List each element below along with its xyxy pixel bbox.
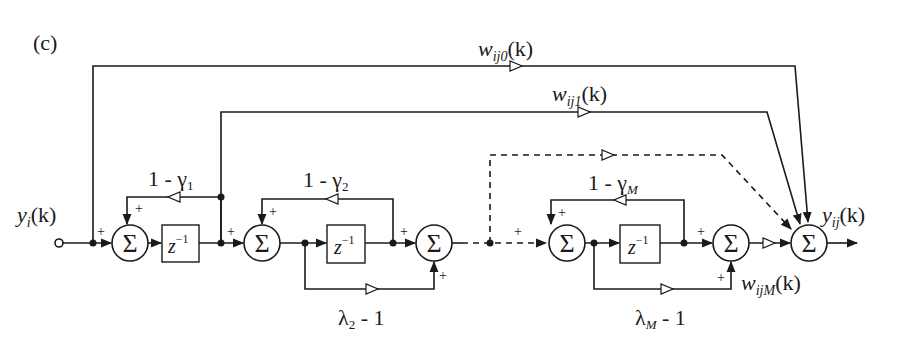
plus-sign: + [227,224,235,239]
weight-line-0 [93,61,808,243]
continuation-dashed [452,240,546,247]
feedback-gain-2: 1 - γ2 [303,167,349,194]
sigma-icon: Σ [801,229,816,258]
plus-sign: + [400,224,408,239]
panel-label: (c) [33,30,57,55]
gain-triangle-icon [326,194,338,204]
weight-label-M: wijM(k) [741,270,801,298]
gain-triangle-icon [661,284,673,294]
sigma-icon: Σ [122,229,137,258]
sigma-icon: Σ [426,229,441,258]
output-label: yij(k) [820,202,865,230]
gain-triangle-icon [168,192,180,202]
plus-sign: + [97,224,105,239]
input-label: yi(k) [15,202,56,230]
feedforward-gain-M: λM - 1 [635,305,686,332]
stage-1: + Σ z−1 + 1 - γ1 [63,166,243,262]
sigma-icon: Σ [254,229,269,258]
stage-2: + Σ z−1 + 1 - γ2 + Σ + λ2 - 1 [227,167,452,332]
plus-sign: + [697,224,705,239]
feedforward-gain-2: λ2 - 1 [338,305,385,332]
input-terminal-icon [55,239,63,247]
stage-M: + Σ z−1 + 1 - γM + Σ + λM - 1 wijM(k) [514,170,801,332]
plus-sign: + [269,204,277,219]
plus-sign: + [439,268,447,283]
weight-label-1: wij1(k) [552,81,607,109]
feedback-gain-M: 1 - γM [588,170,639,197]
gain-triangle-icon [614,195,626,205]
lattice-filter-diagram: (c) wij0(k) wij1(k) yi(k) + Σ z−1 + 1 - … [0,0,897,348]
plus-sign: + [514,224,522,239]
gain-triangle-icon [366,284,378,294]
plus-sign: + [717,270,725,285]
sigma-icon: Σ [559,229,574,258]
feedback-gain-1: 1 - γ1 [148,166,194,193]
plus-sign: + [558,205,566,220]
junction-node [218,194,225,201]
gain-triangle-icon [602,150,614,160]
gain-triangle-icon [763,238,775,248]
plus-sign: + [135,201,143,216]
junction-node [90,240,97,247]
junction-node [487,240,494,247]
gain-triangle-icon [510,61,522,71]
weight-label-0: wij0(k) [478,36,533,64]
sigma-icon: Σ [723,229,738,258]
